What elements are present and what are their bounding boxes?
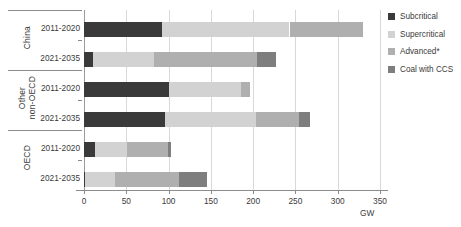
period-label-row-3: 2021-2035: [36, 113, 80, 123]
bar-segment-supercritical[interactable]: [165, 112, 255, 127]
gridline-0: [84, 10, 85, 190]
bar-segment-advanced-[interactable]: [241, 82, 249, 97]
x-tick-label-350: 350: [360, 196, 400, 206]
legend-label-supercritical: Supercritical: [400, 30, 445, 39]
x-tick-label-200: 200: [233, 196, 273, 206]
bar-row[interactable]: [84, 52, 380, 67]
x-tick-300: [338, 190, 339, 194]
bar-segment-advanced-[interactable]: [154, 52, 257, 67]
x-tick-350: [380, 190, 381, 194]
coal-capacity-stacked-bar-chart: China Other non-OECD OECD 2011-2020 2021…: [0, 0, 461, 227]
bar-row[interactable]: [84, 172, 380, 187]
bar-row[interactable]: [84, 142, 380, 157]
legend-label-advanced: Advanced*: [400, 47, 440, 56]
bar-segment-subcritical[interactable]: [84, 112, 165, 127]
bar-segment-supercritical[interactable]: [169, 82, 241, 97]
x-tick-50: [126, 190, 127, 194]
gridline-50: [126, 10, 127, 190]
gridline-300: [338, 10, 339, 190]
x-tick-200: [253, 190, 254, 194]
legend-label-subcritical: Subcritical: [400, 12, 438, 21]
bar-segment-coal-with-ccs[interactable]: [299, 112, 310, 127]
x-tick-150: [211, 190, 212, 194]
bar-segment-subcritical[interactable]: [84, 142, 95, 157]
legend-item-coal-with-ccs[interactable]: Coal with CCS: [388, 65, 460, 74]
x-tick-label-0: 0: [64, 196, 104, 206]
period-label-row-4: 2011-2020: [36, 143, 80, 153]
bar-segment-advanced-[interactable]: [290, 22, 364, 37]
bar-segment-coal-with-ccs[interactable]: [168, 142, 171, 157]
x-tick-label-100: 100: [149, 196, 189, 206]
period-label-row-5: 2021-2035: [36, 173, 80, 183]
gridline-100: [169, 10, 170, 190]
x-tick-250: [295, 190, 296, 194]
bar-segment-supercritical[interactable]: [85, 172, 115, 187]
gridline-350: [380, 10, 381, 190]
bar-segment-supercritical[interactable]: [95, 142, 127, 157]
bar-segment-advanced-[interactable]: [256, 112, 299, 127]
gridline-250: [295, 10, 296, 190]
legend-swatch-subcritical-icon: [388, 13, 395, 20]
legend-label-coal-with-ccs: Coal with CCS: [400, 65, 453, 74]
x-tick-label-300: 300: [318, 196, 358, 206]
legend-item-advanced[interactable]: Advanced*: [388, 47, 460, 56]
legend-swatch-advanced-icon: [388, 48, 395, 55]
x-axis-unit-label: GW: [360, 208, 374, 218]
bar-segment-supercritical[interactable]: [162, 22, 290, 37]
x-tick-label-50: 50: [106, 196, 146, 206]
period-label-row-1: 2021-2035: [36, 53, 80, 63]
bar-segment-subcritical[interactable]: [84, 82, 169, 97]
x-tick-0: [84, 190, 85, 194]
plot-area: [84, 10, 380, 190]
bar-segment-coal-with-ccs[interactable]: [179, 172, 208, 187]
bar-segment-coal-with-ccs[interactable]: [257, 52, 276, 67]
bar-segment-subcritical[interactable]: [84, 22, 162, 37]
period-label-column: 2011-2020 2021-2035 2011-2020 2021-2035 …: [30, 10, 80, 190]
gridline-150: [211, 10, 212, 190]
bar-row[interactable]: [84, 22, 380, 37]
legend-item-supercritical[interactable]: Supercritical: [388, 30, 460, 39]
legend-swatch-coal-with-ccs-icon: [388, 66, 395, 73]
x-tick-label-150: 150: [191, 196, 231, 206]
x-axis-line: [76, 190, 388, 191]
bar-row[interactable]: [84, 112, 380, 127]
bar-segment-supercritical[interactable]: [93, 52, 154, 67]
legend-swatch-supercritical-icon: [388, 31, 395, 38]
bar-segment-advanced-[interactable]: [115, 172, 178, 187]
period-label-row-2: 2011-2020: [36, 83, 80, 93]
bar-row[interactable]: [84, 82, 380, 97]
legend-item-subcritical[interactable]: Subcritical: [388, 12, 460, 21]
x-tick-label-250: 250: [275, 196, 315, 206]
bar-segment-subcritical[interactable]: [84, 52, 93, 67]
period-label-row-0: 2011-2020: [36, 23, 80, 33]
legend: Subcritical Supercritical Advanced* Coal…: [388, 12, 460, 82]
gridline-200: [253, 10, 254, 190]
bar-segment-advanced-[interactable]: [127, 142, 168, 157]
x-tick-100: [169, 190, 170, 194]
